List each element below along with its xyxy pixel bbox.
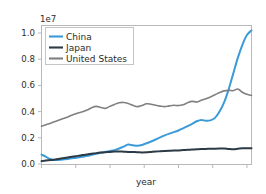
y-axis-offset-text: 1e7 — [40, 14, 56, 24]
y-tick-label-3: 0.6 — [21, 80, 35, 90]
y-tick-label-2: 0.4 — [21, 107, 35, 117]
chart-figure: 1e7 0.0 0.2 0.4 0.6 0.8 1.0 year — [0, 0, 266, 194]
legend-label-china: China — [66, 32, 92, 42]
y-tick-label-0: 0.0 — [21, 159, 35, 169]
y-tick-label-1: 0.2 — [21, 133, 35, 143]
y-tick-label-5: 1.0 — [21, 28, 35, 38]
line-chart: 1e7 0.0 0.2 0.4 0.6 0.8 1.0 year — [0, 0, 266, 194]
legend-label-japan: Japan — [65, 43, 91, 53]
chart-legend[interactable]: China Japan United States — [46, 28, 134, 65]
x-axis-label: year — [136, 177, 156, 187]
legend-label-united-states: United States — [66, 54, 127, 64]
y-tick-label-4: 0.8 — [21, 54, 35, 64]
